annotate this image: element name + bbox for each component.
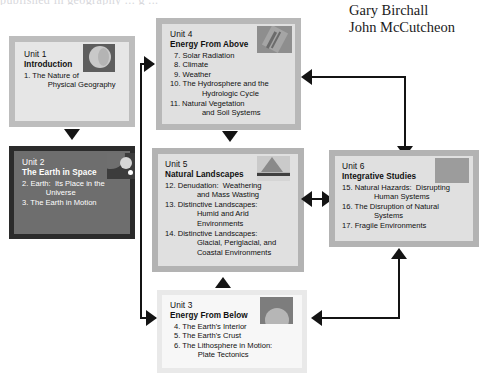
connector-unit4-unit6-vertical (404, 76, 406, 147)
chapter-list: 4. The Earth's Interior 5. The Earth's C… (170, 322, 302, 360)
chapter-item: 5. The Earth's Crust (170, 331, 302, 341)
chapter-item: 3. The Earth in Motion (22, 198, 134, 208)
chapter-item: 2. Earth: Its Place in the Universe (22, 179, 134, 198)
arrow-into-unit4-right (301, 69, 312, 85)
chapter-list: 1. The Nature of Physical Geography (24, 71, 124, 90)
volcano-interior-thumbnail (260, 297, 293, 324)
arrow-into-unit3-right (311, 310, 322, 326)
chapter-list: 7. Solar Radiation 8. Climate 9. Weather… (170, 51, 298, 118)
sun-rays-thumbnail (257, 26, 292, 53)
chapter-item: 10. The Hydrosphere and the Hydrologic C… (170, 79, 298, 98)
chapter-item: 8. Climate (170, 60, 298, 70)
connector-unit3-unit6-horizontal (322, 317, 400, 319)
unit-box-unit-5[interactable]: Unit 5 Natural Landscapes 12. Denudation… (152, 148, 304, 272)
chapter-item: 16. The Disruption of Natural Systems (342, 202, 476, 221)
chapter-item: 9. Weather (170, 70, 298, 80)
author-name-2: John McCutcheon (349, 19, 501, 36)
globe-sphere-thumbnail (83, 44, 115, 72)
unit-box-unit-3[interactable]: Unit 3 Energy From Below 4. The Earth's … (157, 290, 307, 373)
arrow-unit3-to-unit5 (215, 277, 231, 288)
chapter-item: 12. Denudation: Weathering and Mass Wast… (165, 181, 301, 200)
chapter-item: 11. Natural Vegetation and Soil Systems (170, 99, 298, 118)
diagram-canvas: published in geography ... g ... Gary Bi… (0, 0, 503, 378)
unit-box-unit-2[interactable]: Unit 2 The Earth in Space 2. Earth: Its … (9, 146, 135, 239)
arrow-unit2-to-unit3 (146, 310, 157, 326)
unit-box-unit-1[interactable]: Unit 1 Introduction 1. The Nature of Phy… (9, 36, 135, 127)
top-cutoff-text: published in geography ... g ... (0, 0, 330, 5)
chapter-list: 15. Natural Hazards: Disrupting Human Sy… (342, 183, 476, 231)
arrow-unit3-to-unit6 (391, 248, 407, 259)
arrow-unit1-to-unit2 (64, 129, 80, 140)
chapter-item: 6. The Lithosphere in Motion: Plate Tect… (170, 341, 302, 360)
chapter-item: 13. Distinctive Landscapes: Humid and Ar… (165, 200, 301, 229)
unit-box-unit-4[interactable]: Unit 4 Energy From Above 7. Solar Radiat… (156, 18, 301, 130)
chapter-list: 12. Denudation: Weathering and Mass Wast… (165, 181, 301, 258)
chapter-item: 15. Natural Hazards: Disrupting Human Sy… (342, 183, 476, 202)
arrow-unit4-to-unit5 (222, 131, 238, 142)
author-name-1: Gary Birchall (349, 2, 501, 19)
grey-field-thumbnail (435, 158, 469, 183)
connector-unit4-unit6-horizontal (312, 76, 406, 78)
chapter-item: 14. Distinctive Landscapes: Glacial, Per… (165, 229, 301, 258)
planets-space-thumbnail (107, 153, 135, 179)
arrow-unit6-to-unit5 (301, 191, 312, 207)
connector-unit3-unit6-vertical (398, 258, 400, 319)
chapter-list: 2. Earth: Its Place in the Universe 3. T… (22, 179, 134, 208)
authors-block: Gary Birchall John McCutcheon (349, 2, 501, 36)
chapter-item: 1. The Nature of Physical Geography (24, 71, 124, 90)
unit-box-unit-6[interactable]: Unit 6 Integrative Studies 15. Natural H… (329, 150, 479, 247)
connector-unit2-trunk-vertical (140, 63, 142, 318)
arrow-unit2-to-unit4 (144, 56, 155, 72)
mountain-landscape-thumbnail (257, 156, 290, 181)
chapter-item: 17. Fragile Environments (342, 221, 476, 231)
